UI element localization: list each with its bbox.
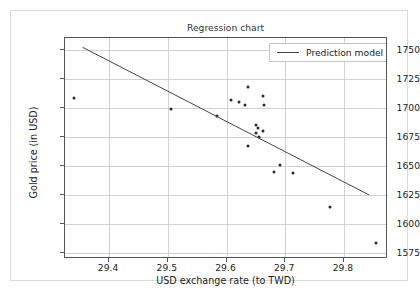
legend-line-swatch: [277, 52, 299, 53]
legend-label-prediction-model: Prediction model: [306, 47, 383, 58]
x-axis-label: USD exchange rate (to TWD): [64, 275, 387, 286]
x-tick-label: 29.4: [78, 262, 138, 273]
x-tick-label: 29.5: [137, 262, 197, 273]
plot-area: Prediction model: [64, 37, 387, 258]
x-tick-label: 29.6: [196, 262, 256, 273]
x-tick-label: 29.8: [313, 262, 373, 273]
x-tick-mark: [343, 258, 344, 262]
chart-legend: Prediction model: [269, 43, 387, 62]
regression-line: [65, 38, 386, 257]
regression-chart-figure: Regression chart Gold price (in USD) USD…: [0, 0, 420, 298]
x-tick-mark: [167, 258, 168, 262]
x-tick-mark: [226, 258, 227, 262]
x-tick-mark: [108, 258, 109, 262]
chart-title: Regression chart: [64, 22, 387, 33]
y-axis-label: Gold price (in USD): [28, 63, 39, 243]
x-tick-mark: [284, 258, 285, 262]
x-tick-label: 29.7: [254, 262, 314, 273]
